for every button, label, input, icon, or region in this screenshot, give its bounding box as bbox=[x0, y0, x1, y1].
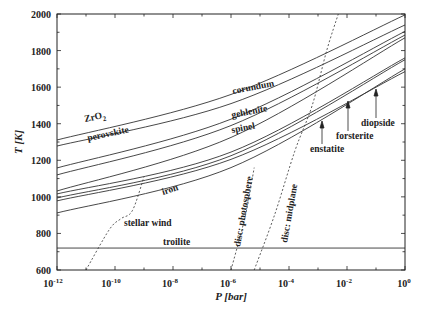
curve-zro2 bbox=[57, 15, 405, 140]
label-enstatite: enstatite bbox=[310, 144, 344, 154]
y-tick-800: 800 bbox=[36, 228, 51, 239]
label-diopside: diopside bbox=[361, 118, 395, 128]
curve-gehlenite bbox=[57, 35, 405, 175]
label-disc-photosphere: disc: photosphere bbox=[232, 175, 254, 247]
x-tick-1e-10: 10-10 bbox=[101, 277, 121, 289]
y-tick-1400: 1400 bbox=[31, 119, 51, 130]
x-axis-title: P [bar] bbox=[215, 290, 247, 302]
y-tick-2000: 2000 bbox=[31, 9, 51, 20]
y-tick-1200: 1200 bbox=[31, 155, 51, 166]
y-tick-labels: 600 800 1000 1200 1400 1600 1800 2000 bbox=[31, 9, 51, 276]
curves-layer bbox=[57, 14, 405, 270]
x-tick-labels: 10-12 10-10 10-8 10-6 10-4 10-2 100 bbox=[43, 277, 411, 289]
x-tick-1e-4: 10-4 bbox=[278, 277, 294, 289]
y-tick-1600: 1600 bbox=[31, 82, 51, 93]
x-tick-1e-2: 10-2 bbox=[336, 277, 352, 289]
label-corundum: corundum bbox=[231, 78, 274, 96]
ticks-layer bbox=[57, 14, 405, 270]
arrow-enstatite-head bbox=[320, 121, 324, 128]
y-tick-1000: 1000 bbox=[31, 192, 51, 203]
curve-disc-midplane bbox=[254, 14, 338, 270]
arrow-diopside-head bbox=[374, 89, 378, 96]
label-iron: iron bbox=[161, 182, 181, 197]
label-stellar-wind: stellar wind bbox=[124, 218, 172, 228]
label-disc-midplane: disc: midplane bbox=[279, 183, 299, 243]
plot-frame bbox=[57, 14, 405, 270]
x-tick-1e-12: 10-12 bbox=[43, 277, 63, 289]
label-spinel: spinel bbox=[230, 121, 256, 135]
y-axis-title: T [K] bbox=[12, 130, 24, 154]
label-zro2: ZrO2 bbox=[83, 110, 107, 127]
condensation-chart: 600 800 1000 1200 1400 1600 1800 2000 10… bbox=[0, 0, 422, 310]
y-tick-600: 600 bbox=[36, 265, 51, 276]
x-tick-1e-6: 10-6 bbox=[220, 277, 236, 289]
label-forsterite: forsterite bbox=[336, 131, 373, 141]
y-tick-1800: 1800 bbox=[31, 46, 51, 57]
label-perovskite: perovskite bbox=[86, 124, 129, 143]
x-tick-1e-8: 10-8 bbox=[162, 277, 178, 289]
x-tick-1e0: 100 bbox=[397, 277, 411, 289]
label-troilite: troilite bbox=[163, 237, 190, 247]
figure-caption-fragment bbox=[0, 302, 422, 310]
